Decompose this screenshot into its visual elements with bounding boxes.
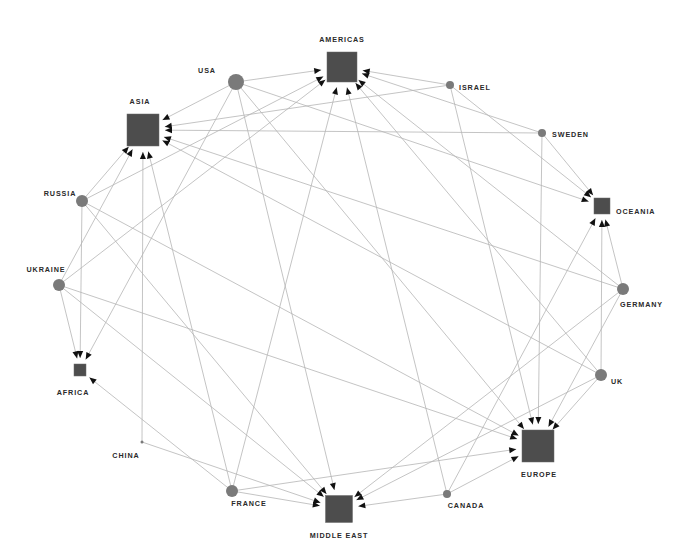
node-label-russia: RUSSIA bbox=[44, 189, 77, 198]
edge-germany-to-asia bbox=[164, 137, 623, 289]
arrowhead-icon bbox=[599, 220, 605, 227]
node-label-middle-east: MIDDLE EAST bbox=[310, 531, 369, 540]
node-oceania[interactable] bbox=[594, 198, 610, 214]
edge-israel-to-asia bbox=[165, 85, 450, 127]
node-label-canada: CANADA bbox=[448, 501, 485, 510]
arrowhead-icon bbox=[140, 152, 146, 159]
node-label-usa: USA bbox=[198, 66, 216, 75]
node-canada[interactable] bbox=[443, 490, 451, 498]
node-americas[interactable] bbox=[327, 52, 357, 82]
edge-sweden-to-asia bbox=[165, 130, 542, 133]
arrowhead-icon bbox=[589, 218, 595, 226]
edge-ukraine-to-africa bbox=[59, 285, 77, 358]
arrowhead-icon bbox=[581, 196, 589, 202]
node-china[interactable] bbox=[141, 441, 144, 444]
node-label-oceania: OCEANIA bbox=[616, 207, 655, 216]
edge-usa-to-europe bbox=[236, 82, 524, 429]
edge-germany-to-middle-east bbox=[354, 289, 623, 497]
arrowhead-icon bbox=[509, 447, 516, 453]
arrowhead-icon bbox=[549, 419, 555, 427]
node-africa[interactable] bbox=[74, 364, 86, 376]
edge-ukraine-to-middle-east bbox=[59, 285, 324, 497]
node-europe[interactable] bbox=[522, 430, 554, 462]
edge-russia-to-americas bbox=[82, 77, 323, 201]
node-label-europe: EUROPE bbox=[521, 470, 557, 479]
edge-uk-to-europe bbox=[553, 375, 601, 430]
arrowhead-icon bbox=[362, 73, 370, 79]
node-label-france: FRANCE bbox=[231, 499, 266, 508]
node-russia[interactable] bbox=[76, 195, 88, 207]
edge-germany-to-oceania bbox=[605, 220, 623, 289]
arrowhead-icon bbox=[147, 151, 153, 159]
node-germany[interactable] bbox=[617, 283, 629, 295]
edge-russia-to-africa bbox=[80, 201, 82, 358]
node-uk[interactable] bbox=[595, 369, 607, 381]
arrowhead-icon bbox=[358, 502, 365, 508]
edge-germany-to-europe bbox=[548, 289, 623, 427]
edge-israel-to-oceania bbox=[450, 85, 591, 197]
node-france[interactable] bbox=[226, 485, 238, 497]
node-israel[interactable] bbox=[446, 81, 454, 89]
edge-usa-to-oceania bbox=[236, 82, 589, 202]
node-label-uk: UK bbox=[611, 377, 623, 386]
edge-france-to-americas bbox=[232, 87, 337, 491]
edge-ukraine-to-europe bbox=[59, 285, 517, 439]
edge-russia-to-europe bbox=[82, 201, 519, 436]
edge-france-to-asia bbox=[148, 151, 232, 491]
arrowhead-icon bbox=[517, 422, 524, 429]
edge-usa-to-asia bbox=[163, 82, 236, 120]
edge-uk-to-asia bbox=[162, 140, 601, 375]
edge-france-to-africa bbox=[89, 377, 232, 491]
arrowhead-icon bbox=[86, 352, 92, 360]
node-label-ukraine: UKRAINE bbox=[26, 265, 65, 274]
arrowhead-icon bbox=[604, 220, 610, 228]
edge-usa-to-americas bbox=[236, 70, 321, 82]
node-label-africa: AFRICA bbox=[57, 388, 90, 397]
node-label-asia: ASIA bbox=[130, 97, 151, 106]
arrowhead-icon bbox=[535, 417, 541, 424]
node-label-germany: GERMANY bbox=[620, 300, 663, 309]
edge-china-to-asia bbox=[142, 152, 143, 442]
edge-canada-to-europe bbox=[447, 456, 519, 494]
node-middle-east[interactable] bbox=[326, 496, 353, 523]
node-label-china: CHINA bbox=[112, 451, 139, 460]
node-label-americas: AMERICAS bbox=[319, 35, 365, 44]
edge-uk-to-oceania bbox=[601, 220, 602, 375]
arrowhead-icon bbox=[73, 351, 79, 359]
arrowhead-icon bbox=[346, 87, 352, 95]
edge-usa-to-africa bbox=[86, 82, 236, 359]
node-usa[interactable] bbox=[228, 74, 244, 90]
node-label-sweden: SWEDEN bbox=[552, 130, 589, 139]
arrowhead-icon bbox=[89, 378, 96, 385]
arrowhead-icon bbox=[165, 127, 172, 133]
edge-uk-to-middle-east bbox=[356, 375, 601, 500]
edge-ukraine-to-asia bbox=[59, 149, 133, 285]
edge-ukraine-to-americas bbox=[59, 80, 325, 285]
arrowhead-icon bbox=[332, 87, 338, 95]
edge-uk-to-americas bbox=[356, 83, 601, 375]
edge-russia-to-asia bbox=[82, 147, 129, 201]
node-asia[interactable] bbox=[127, 114, 159, 146]
arrowhead-icon bbox=[314, 68, 321, 74]
edge-canada-to-oceania bbox=[447, 218, 595, 494]
network-diagram: AMERICASASIAOCEANIAAFRICAEUROPEMIDDLE EA… bbox=[0, 0, 673, 558]
node-label-israel: ISRAEL bbox=[459, 83, 491, 92]
node-sweden[interactable] bbox=[538, 129, 546, 137]
node-ukraine[interactable] bbox=[53, 279, 65, 291]
edge-france-to-europe bbox=[232, 449, 516, 491]
arrowhead-icon bbox=[528, 417, 534, 425]
edge-israel-to-americas bbox=[363, 70, 450, 85]
edge-germany-to-americas bbox=[358, 80, 623, 289]
edge-sweden-to-europe bbox=[538, 133, 542, 424]
edge-canada-to-middle-east bbox=[358, 494, 447, 506]
labels-layer: AMERICASASIAOCEANIAAFRICAEUROPEMIDDLE EA… bbox=[26, 35, 663, 540]
arrowhead-icon bbox=[330, 483, 336, 491]
arrowhead-icon bbox=[162, 140, 170, 146]
